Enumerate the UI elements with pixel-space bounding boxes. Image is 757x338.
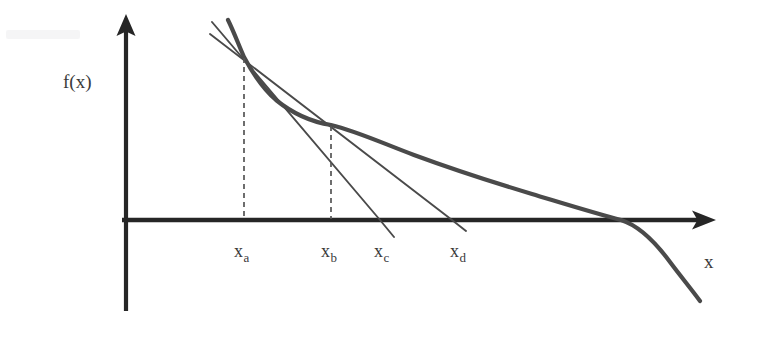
- y-axis-label: f(x): [63, 71, 91, 93]
- tick-xd-sub: d: [460, 250, 467, 265]
- tick-label-xd: xd: [450, 241, 467, 265]
- tick-label-xc: xc: [374, 241, 390, 265]
- tick-xb-sub: b: [331, 250, 338, 265]
- tick-xa-sub: a: [244, 250, 250, 265]
- tick-xd-base: x: [450, 241, 459, 261]
- svg-text:xd: xd: [450, 241, 467, 265]
- axes-group: [117, 14, 717, 311]
- tick-xa-base: x: [234, 241, 243, 261]
- svg-text:xb: xb: [321, 241, 337, 265]
- function-plot-diagram: f(x) x xa xb xc xd: [0, 0, 757, 338]
- tangent-lines-group: [210, 22, 466, 237]
- tick-label-xa: xa: [234, 241, 250, 265]
- dashed-droplines-group: [244, 58, 331, 219]
- svg-text:xc: xc: [374, 241, 390, 265]
- tick-label-xb: xb: [321, 241, 337, 265]
- tick-xc-sub: c: [384, 250, 390, 265]
- svg-text:xa: xa: [234, 241, 250, 265]
- tangent-line-at-xa: [212, 22, 394, 237]
- tick-xc-base: x: [374, 241, 383, 261]
- tick-xb-base: x: [321, 241, 330, 261]
- x-axis-label: x: [704, 251, 714, 272]
